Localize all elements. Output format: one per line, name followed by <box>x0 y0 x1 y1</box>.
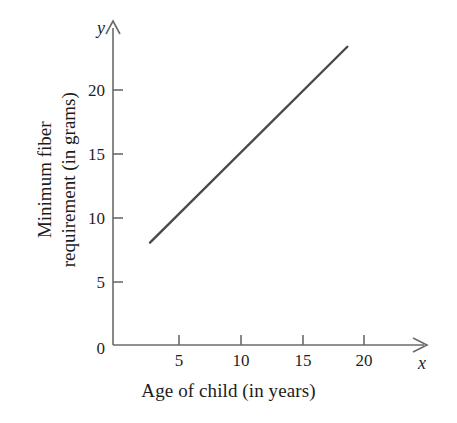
x-tick-label-10: 10 <box>233 352 250 369</box>
y-tick-marks <box>113 90 123 282</box>
data-series-line <box>150 47 347 243</box>
y-tick-label-5: 5 <box>97 274 106 291</box>
x-tick-marks <box>179 335 364 345</box>
x-tick-label-20: 20 <box>356 352 373 369</box>
x-axis-title: Age of child (in years) <box>0 381 457 400</box>
y-axis-title-line2: requirement (in grams) <box>57 92 81 267</box>
chart-figure: 20 15 10 5 0 5 10 15 20 y x Age of child… <box>0 0 457 423</box>
y-axis-title: Minimum fiber requirement (in grams) <box>18 0 96 360</box>
x-axis-symbol: x <box>418 354 426 372</box>
x-tick-label-5: 5 <box>175 352 184 369</box>
y-axis-title-line1: Minimum fiber <box>33 92 57 267</box>
y-axis-symbol: y <box>97 19 105 37</box>
origin-label: 0 <box>97 340 106 357</box>
x-tick-label-15: 15 <box>295 352 312 369</box>
